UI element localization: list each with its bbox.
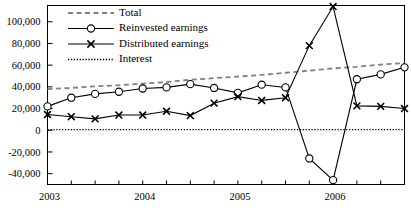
y-axis-tick-label: 100,000: [6, 16, 40, 27]
chart-container: -40,000-20,000020,00040,00060,00080,0001…: [0, 0, 411, 218]
y-axis-tick-labels: -40,000-20,000020,00040,00060,00080,0001…: [6, 16, 40, 179]
data-point-marker: [44, 103, 51, 110]
data-point-marker: [306, 155, 313, 162]
data-point-marker: [330, 177, 337, 184]
legend-label: Distributed earnings: [119, 37, 209, 49]
x-axis-tick-label: 2006: [325, 191, 346, 202]
legend-swatch-marker: [87, 25, 94, 32]
data-point-marker: [163, 84, 170, 91]
y-axis-tick-label: 60,000: [12, 60, 41, 71]
data-point-marker: [234, 89, 241, 96]
data-point-marker: [139, 85, 146, 92]
data-point-marker: [401, 64, 408, 71]
y-axis-tick-label: 0: [35, 125, 40, 136]
series-reinvested-earnings: [44, 64, 408, 184]
legend-item-total: Total: [68, 6, 141, 18]
x-axis-tick-label: 2004: [134, 191, 156, 202]
data-point-marker: [377, 71, 384, 78]
data-point-marker: [187, 81, 194, 88]
data-point-marker: [282, 84, 289, 91]
data-point-marker: [211, 84, 218, 91]
y-axis-tick-label: 20,000: [12, 103, 41, 114]
data-series-group: [44, 3, 408, 184]
plot-border: [48, 6, 405, 185]
chart-legend: TotalReinvested earningsDistributed earn…: [68, 6, 209, 65]
x-axis-tick-labels: 2003200420052006: [39, 191, 346, 202]
data-point-marker: [330, 3, 337, 10]
legend-item-distributed-earnings: Distributed earnings: [68, 37, 209, 49]
series-path: [48, 63, 405, 89]
legend-label: Interest: [119, 52, 152, 64]
data-point-marker: [211, 100, 218, 107]
legend-label: Reinvested earnings: [119, 21, 208, 33]
x-axis-tick-label: 2003: [39, 191, 60, 202]
series-distributed-earnings: [44, 3, 408, 122]
data-point-marker: [306, 42, 313, 49]
y-axis-tick-label: 40,000: [12, 81, 41, 92]
series-path: [48, 7, 405, 119]
x-axis-tick-marks: [48, 181, 405, 185]
data-point-marker: [68, 94, 75, 101]
legend-label: Total: [119, 6, 141, 18]
data-point-marker: [115, 88, 122, 95]
y-axis-tick-label: -20,000: [8, 147, 40, 158]
y-axis-tick-label: -40,000: [8, 168, 40, 179]
plot-area-frame: [48, 6, 405, 185]
y-axis-tick-marks: [48, 22, 53, 174]
legend-item-interest: Interest: [68, 52, 152, 64]
series-total: [48, 63, 405, 89]
data-point-marker: [92, 90, 99, 97]
line-chart: -40,000-20,000020,00040,00060,00080,0001…: [0, 0, 411, 218]
series-path: [48, 67, 405, 180]
y-axis-tick-label: 80,000: [12, 38, 41, 49]
legend-item-reinvested-earnings: Reinvested earnings: [68, 21, 208, 33]
data-point-marker: [353, 76, 360, 83]
x-axis-tick-label: 2005: [229, 191, 250, 202]
data-point-marker: [258, 81, 265, 88]
